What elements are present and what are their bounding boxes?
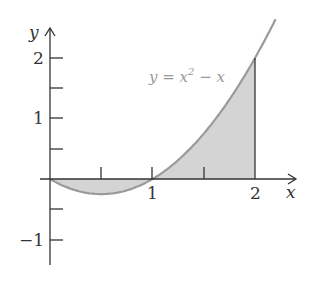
y-ticks [50,58,63,240]
eq-superscript: 2 [187,66,194,77]
y-tick-label-neg1: −1 [19,230,44,250]
equation-label: y = x2 − x [148,66,226,86]
eq-tail: − x [194,68,225,86]
x-tick-label-2: 2 [250,183,261,203]
x-axis-label: x [286,182,296,202]
y-tick-label-2: 2 [33,48,44,68]
x-tick-label-1: 1 [147,183,158,203]
y-tick-label-1: 1 [33,108,44,128]
y-axis-label: y [28,22,39,42]
function-graph: y x 1 2 2 1 −1 y = x2 − x [0,0,311,291]
eq-main: y = x [148,68,189,86]
